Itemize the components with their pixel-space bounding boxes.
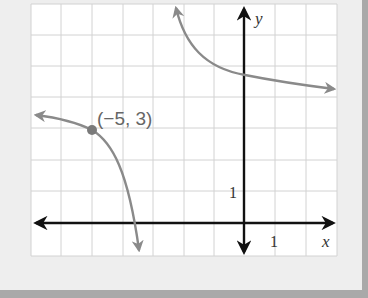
x-tick-label: 1: [270, 233, 278, 250]
point-label: (−5, 3): [97, 108, 152, 129]
graph: (−5, 3) y x 1 1: [0, 0, 368, 298]
point-marker: [87, 125, 97, 135]
y-axis-label: y: [253, 9, 263, 28]
y-tick-label: 1: [229, 184, 237, 201]
x-axis-label: x: [321, 232, 330, 251]
